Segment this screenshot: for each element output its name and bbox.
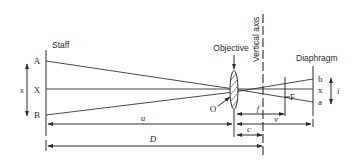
u-label: u xyxy=(141,113,146,123)
f-label: f xyxy=(257,103,261,113)
c-label: c xyxy=(247,124,251,134)
point-o-label: O xyxy=(210,104,217,114)
point-x-small-label: x xyxy=(318,85,323,95)
optical-centre: O xyxy=(210,97,230,114)
s-label: s xyxy=(20,85,24,95)
v-label: v xyxy=(274,114,278,124)
image-intercept-dimension: i xyxy=(331,78,340,104)
point-x-label: X xyxy=(34,85,41,95)
objective-label: Objective xyxy=(213,43,249,53)
instrument-constant-dimension: c xyxy=(237,124,262,135)
i-label: i xyxy=(337,86,340,96)
point-f-label: F xyxy=(290,92,295,102)
stadia-diagram: Staff A X B s Objective O Vertical axis xyxy=(0,0,355,164)
light-rays xyxy=(46,61,313,115)
point-a-small-label: a xyxy=(318,97,322,107)
objective-lens xyxy=(230,71,238,138)
total-distance-dimension: D xyxy=(48,134,262,146)
point-b-small-label: b xyxy=(318,74,323,84)
diaphragm-label: Diaphragm xyxy=(296,53,338,63)
point-a-label: A xyxy=(34,56,41,66)
focal-length-dimension: f xyxy=(237,103,284,114)
point-b-label: B xyxy=(34,110,40,120)
objective-label-group: Objective xyxy=(213,43,249,69)
object-distance-dimension: u xyxy=(48,113,232,124)
vertical-axis-label: Vertical axis xyxy=(251,17,261,62)
image-distance-dimension: v xyxy=(237,114,311,124)
staff-label: Staff xyxy=(52,40,70,50)
d-label: D xyxy=(149,134,157,144)
staff-intercept-dimension: s xyxy=(20,64,27,116)
staff: Staff A X B xyxy=(34,40,70,151)
